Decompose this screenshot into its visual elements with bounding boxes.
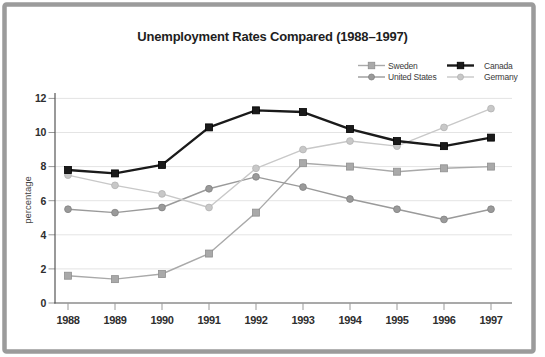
data-point-united-states-1993 xyxy=(300,184,307,191)
data-point-united-states-1995 xyxy=(394,206,401,213)
x-tick-label-1993: 1993 xyxy=(292,314,315,326)
x-tick-label-1988: 1988 xyxy=(57,314,80,326)
data-point-sweden-1988 xyxy=(65,272,72,279)
legend-marker-germany xyxy=(458,74,464,80)
data-point-united-states-1996 xyxy=(441,216,448,223)
x-tick-label-1991: 1991 xyxy=(198,314,221,326)
data-point-germany-1994 xyxy=(347,138,354,145)
data-point-canada-1994 xyxy=(347,126,354,133)
data-point-united-states-1991 xyxy=(206,185,213,192)
data-point-sweden-1992 xyxy=(253,209,260,216)
data-point-germany-1992 xyxy=(253,165,260,172)
data-point-canada-1997 xyxy=(488,134,495,141)
data-point-united-states-1994 xyxy=(347,196,354,203)
x-tick-label-1989: 1989 xyxy=(104,314,127,326)
legend-label-united-states: United States xyxy=(388,72,436,82)
x-tick-label-1996: 1996 xyxy=(433,314,456,326)
data-point-sweden-1997 xyxy=(488,163,495,170)
legend-label-sweden: Sweden xyxy=(388,61,418,71)
legend-marker-united-states xyxy=(369,74,375,80)
y-tick-label-2: 2 xyxy=(40,263,46,275)
data-point-canada-1995 xyxy=(394,138,401,145)
series-line-sweden xyxy=(68,163,491,279)
x-tick-label-1995: 1995 xyxy=(386,314,409,326)
data-point-canada-1992 xyxy=(253,107,260,114)
legend-marker-sweden xyxy=(368,62,375,69)
x-tick-label-1997: 1997 xyxy=(480,314,503,326)
x-tick-label-1992: 1992 xyxy=(245,314,268,326)
data-point-canada-1989 xyxy=(112,170,119,177)
y-tick-label-10: 10 xyxy=(35,126,47,138)
data-point-germany-1993 xyxy=(300,146,307,153)
series-line-germany xyxy=(68,109,491,208)
x-tick-label-1990: 1990 xyxy=(151,314,174,326)
legend-label-canada: Canada xyxy=(484,61,513,71)
data-point-canada-1993 xyxy=(300,109,307,116)
data-point-united-states-1990 xyxy=(159,204,166,211)
data-point-canada-1988 xyxy=(65,167,72,174)
y-tick-label-0: 0 xyxy=(40,297,46,309)
data-point-canada-1991 xyxy=(206,124,213,131)
data-point-canada-1990 xyxy=(159,161,166,168)
y-axis-label: percentage xyxy=(22,176,33,224)
series-line-united-states xyxy=(68,177,491,220)
data-point-united-states-1988 xyxy=(65,206,72,213)
data-point-sweden-1991 xyxy=(206,250,213,257)
y-tick-label-12: 12 xyxy=(35,92,47,104)
unemployment-rates-line-chart: 0246810121988198919901991199219931994199… xyxy=(0,0,545,357)
data-point-united-states-1997 xyxy=(488,206,495,213)
data-point-germany-1991 xyxy=(206,204,213,211)
y-tick-label-6: 6 xyxy=(40,195,46,207)
data-point-canada-1996 xyxy=(441,143,448,150)
y-tick-label-8: 8 xyxy=(40,160,46,172)
data-point-sweden-1995 xyxy=(394,168,401,175)
legend-marker-canada xyxy=(457,62,464,69)
y-tick-label-4: 4 xyxy=(40,229,46,241)
data-point-germany-1997 xyxy=(488,105,495,112)
data-point-united-states-1989 xyxy=(112,209,119,216)
data-point-germany-1989 xyxy=(112,182,119,189)
data-point-sweden-1990 xyxy=(159,271,166,278)
data-point-sweden-1994 xyxy=(347,163,354,170)
data-point-germany-1990 xyxy=(159,190,166,197)
data-point-sweden-1989 xyxy=(112,276,119,283)
data-point-united-states-1992 xyxy=(253,173,260,180)
legend-label-germany: Germany xyxy=(484,72,519,82)
data-point-sweden-1993 xyxy=(300,160,307,167)
data-point-germany-1996 xyxy=(441,124,448,131)
data-point-sweden-1996 xyxy=(441,165,448,172)
series-line-canada xyxy=(68,110,491,173)
x-tick-label-1994: 1994 xyxy=(339,314,363,326)
